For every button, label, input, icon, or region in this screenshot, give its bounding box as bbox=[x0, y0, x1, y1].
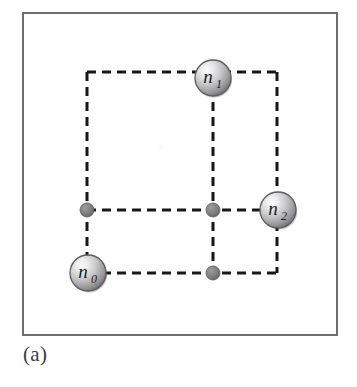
figure-caption: (a) bbox=[23, 344, 47, 365]
figure-frame bbox=[22, 12, 338, 336]
figure-panel: n0n1n2 (a) bbox=[0, 0, 357, 387]
